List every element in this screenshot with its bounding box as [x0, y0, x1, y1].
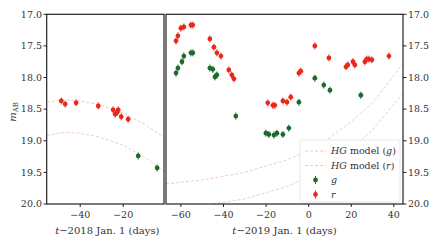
y-tick-label-right: 18.0 [408, 72, 429, 83]
x-tick-label: 20 [345, 209, 357, 220]
y-tick-label-right: 20.0 [408, 198, 429, 209]
svg-text:HG model (r): HG model (r) [330, 160, 394, 171]
data-point-r [312, 42, 317, 49]
data-point-r [387, 53, 392, 60]
x-tick-label: −60 [171, 209, 191, 220]
y-tick-label-right: 18.5 [408, 103, 429, 114]
x-axis-label: t−2019 Jan. 1 (days) [232, 225, 336, 236]
data-point-g [136, 152, 141, 159]
data-point-g [281, 131, 286, 138]
panel-2018: −40−20t−2018 Jan. 1 (days) [47, 14, 164, 236]
y-tick-label-left: 18.0 [21, 72, 42, 83]
x-tick-label: 0 [306, 209, 312, 220]
y-tick-label-right: 17.0 [408, 9, 429, 20]
x-axis-label: t−2018 Jan. 1 (days) [55, 225, 159, 236]
data-point-r [265, 99, 270, 106]
y-tick-label-left: 17.0 [21, 9, 42, 20]
data-point-g [321, 82, 326, 89]
y-tick-label-right: 17.5 [408, 40, 429, 51]
data-point-r [119, 113, 124, 120]
svg-text:g: g [331, 174, 337, 185]
data-point-g [233, 113, 238, 120]
y-tick-label-left: 17.5 [21, 40, 42, 51]
data-point-r [207, 35, 212, 42]
data-point-g [328, 87, 333, 94]
data-point-r [96, 102, 101, 109]
data-point-r [214, 49, 219, 56]
axes-frame [47, 14, 164, 204]
svg-text:HG model (g): HG model (g) [330, 145, 396, 156]
data-point-r [226, 66, 231, 73]
data-point-r [288, 94, 293, 101]
x-tick-label: −20 [113, 209, 133, 220]
data-point-g [296, 99, 301, 106]
y-tick-label-left: 19.0 [21, 135, 42, 146]
y-tick-label-left: 20.0 [21, 198, 42, 209]
data-point-r [326, 54, 331, 61]
y-tick-label-right: 19.0 [408, 135, 429, 146]
data-point-r [285, 99, 290, 106]
legend: HG model (g)HG model (r)gr [300, 140, 400, 202]
y-tick-label-right: 19.5 [408, 167, 429, 178]
data-point-r [281, 97, 286, 104]
light-curve-chart: −40−20t−2018 Jan. 1 (days) −60−40−200204… [0, 0, 437, 246]
data-point-g [312, 75, 317, 82]
y-tick-label-left: 19.5 [21, 167, 42, 178]
data-point-r [212, 44, 217, 51]
y-tick-label-left: 18.5 [21, 103, 42, 114]
y-axis-label: mAB [7, 102, 20, 122]
data-point-r [219, 53, 224, 60]
x-tick-label: −40 [70, 209, 90, 220]
x-tick-label: 40 [388, 209, 400, 220]
data-point-g [286, 125, 291, 132]
x-tick-label: −20 [256, 209, 276, 220]
data-point-g [358, 92, 363, 99]
model-curve [47, 133, 164, 172]
panel-2019: −60−40−2002040t−2019 Jan. 1 (days) [166, 14, 403, 236]
x-tick-label: −40 [213, 209, 233, 220]
